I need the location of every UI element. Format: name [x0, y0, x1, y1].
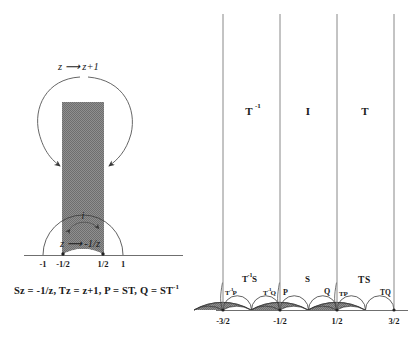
cell-label-suffix: S [365, 275, 370, 285]
cell-label: T S [358, 275, 370, 285]
cell-label: T Q [380, 288, 391, 297]
caption-main: Sz = -1/z, Tz = z+1, P = ST, Q = ST [14, 285, 173, 296]
axis-tick-label: -1/2 [56, 259, 70, 269]
axis-tick-label: 1/2 [332, 316, 343, 326]
cell-label-suffix: S [305, 274, 310, 284]
cell-label-suffix: Q [324, 287, 330, 296]
region-label-I: I [306, 105, 310, 117]
region-label-T: T [361, 105, 369, 117]
tick-dot [278, 308, 281, 311]
cell-label: S [305, 274, 310, 284]
cell-label-base: T [358, 275, 365, 285]
translation-map-label: z ⟶ z+1 [57, 61, 99, 72]
modular-group-figure: -1 -1/2 1/2 1 z ⟶ z+1 i z ⟶ -1/z Sz = -1… [0, 0, 416, 348]
region-label-base: T [245, 105, 253, 117]
axis-tick-label: -1 [39, 259, 46, 269]
cell-label: T -1 P [225, 287, 238, 297]
cell-label: T -1 Q [263, 287, 277, 297]
translation-map-text: z ⟶ z+1 [57, 61, 99, 72]
tick-dot [335, 308, 338, 311]
axis-tick-label: 3/2 [389, 316, 400, 326]
cell-label: Q [324, 287, 330, 296]
caption-exponent: -1 [173, 283, 179, 291]
cell-label: P [283, 288, 288, 297]
region-label-T-inverse: T -1 [245, 102, 261, 117]
fundamental-domain-panel: -1 -1/2 1/2 1 z ⟶ z+1 i z ⟶ -1/z [0, 0, 208, 348]
tessellation-panel: -3/2 -1/2 1/2 3/2 T -1 I T T -1 P T -1 S [208, 0, 416, 348]
cell-label-suffix: P [283, 288, 288, 297]
fundamental-domain-shade [62, 102, 104, 220]
cell-label: T -1 S [242, 272, 257, 284]
axis-tick-label: -3/2 [216, 316, 230, 326]
cell-label-suffix: Q [271, 289, 277, 297]
tick-dot [221, 308, 224, 311]
region-label-exponent: -1 [255, 102, 261, 110]
axis-tick-label: -1/2 [273, 316, 287, 326]
cell-label-suffix: Q [385, 288, 391, 297]
cell-label: T P [339, 290, 349, 298]
formula-caption: Sz = -1/z, Tz = z+1, P = ST, Q = ST-1 [14, 283, 179, 296]
cell-label-suffix: P [344, 290, 349, 298]
tick-dot-pos-half [101, 252, 104, 255]
inversion-map-text: z ⟶ -1/z [59, 238, 100, 249]
point-i-label: i [82, 210, 85, 221]
tick-dot-neg-half [61, 252, 64, 255]
axis-tick-label: 1 [121, 259, 125, 269]
axis-tick-label: 1/2 [98, 259, 109, 269]
tick-dot [392, 308, 395, 311]
cell-label-suffix: P [233, 289, 238, 297]
tessellation-small-arcs [223, 296, 394, 310]
cell-label-suffix: S [252, 274, 257, 284]
